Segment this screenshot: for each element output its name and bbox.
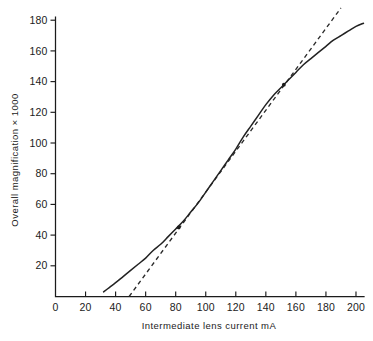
- x-tick-label: 40: [110, 301, 122, 313]
- y-tick-label: 40: [35, 229, 47, 241]
- y-tick-label: 60: [35, 198, 47, 210]
- x-tick-label: 0: [52, 301, 58, 313]
- x-tick-label: 200: [347, 301, 365, 313]
- tangency-point-marker: [177, 226, 181, 230]
- y-tick-marks: [51, 20, 56, 266]
- x-tick-label: 140: [257, 301, 275, 313]
- x-tick-label: 120: [227, 301, 245, 313]
- tangent-line: [129, 8, 341, 297]
- chart-figure: 20406080100120140160180 0204060801001201…: [0, 0, 373, 341]
- plot-canvas: 20406080100120140160180 0204060801001201…: [0, 0, 373, 341]
- x-tick-label: 160: [287, 301, 305, 313]
- tangency-point-marker: [282, 83, 286, 87]
- y-tick-label: 120: [29, 106, 47, 118]
- x-axis-title: Intermediate lens current mA: [142, 320, 277, 331]
- y-tick-label: 160: [29, 45, 47, 57]
- magnification-curve: [104, 23, 364, 292]
- y-tick-label: 80: [35, 167, 47, 179]
- x-tick-marks: [86, 292, 356, 297]
- y-axis-title: Overall magnification × 1000: [9, 93, 20, 226]
- axis-lines: [56, 17, 365, 297]
- x-tick-label: 180: [317, 301, 335, 313]
- y-tick-label: 180: [29, 14, 47, 26]
- y-tick-label: 140: [29, 75, 47, 87]
- x-tick-label: 20: [80, 301, 92, 313]
- axis-group: [56, 17, 365, 297]
- x-tick-label: 100: [197, 301, 215, 313]
- x-tick-labels: 020406080100120140160180200: [52, 301, 365, 313]
- y-tick-label: 100: [29, 137, 47, 149]
- x-tick-label: 60: [140, 301, 152, 313]
- y-tick-labels: 20406080100120140160180: [29, 14, 47, 272]
- x-tick-label: 80: [170, 301, 182, 313]
- y-tick-label: 20: [35, 259, 47, 271]
